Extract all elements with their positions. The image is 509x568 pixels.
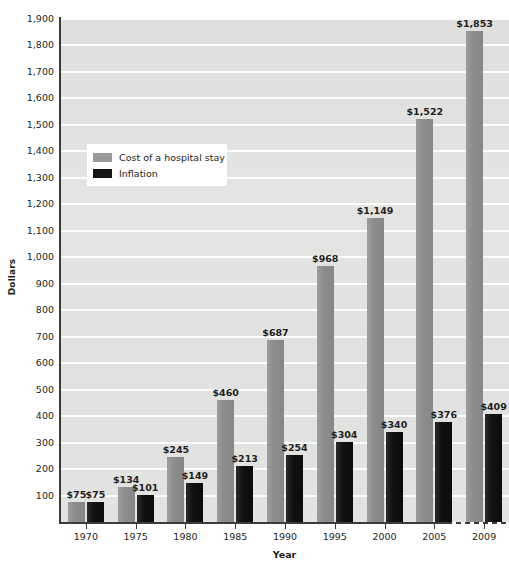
- bar-inflation-1980: [186, 483, 203, 522]
- gridline: [61, 256, 509, 258]
- bar-cost-1970: [68, 502, 85, 522]
- bar-inflation-1970: [87, 502, 104, 522]
- x-axis-line-dashed-extension: [447, 522, 509, 524]
- y-axis-tick-label: 1,900: [8, 14, 54, 24]
- bar-cost-2005: [416, 119, 433, 522]
- x-axis-tick-mark: [235, 524, 236, 529]
- legend: Cost of a hospital stay Inflation: [87, 144, 227, 186]
- y-axis-tick-label: 1,200: [8, 199, 54, 209]
- bar-cost-2009: [466, 31, 483, 522]
- gridline: [61, 124, 509, 126]
- legend-label-cost: Cost of a hospital stay: [119, 152, 225, 163]
- x-axis-tick-label-2009: 2009: [454, 531, 509, 542]
- gridline: [61, 203, 509, 205]
- value-label-cost-1985: $460: [196, 387, 256, 398]
- legend-label-inflation: Inflation: [119, 168, 158, 179]
- y-axis-tick-label: 1,700: [8, 67, 54, 77]
- value-label-cost-2000: $1,149: [345, 205, 405, 216]
- bar-inflation-2005: [435, 422, 452, 522]
- y-axis-tick-label: 400: [8, 411, 54, 421]
- y-axis-tick-label: 500: [8, 385, 54, 395]
- gridline: [61, 309, 509, 311]
- y-axis-tick-label: 1,000: [8, 252, 54, 262]
- value-label-inflation-2000: $340: [364, 419, 424, 430]
- y-axis-line: [59, 17, 61, 524]
- y-axis-tick-label: 1,600: [8, 93, 54, 103]
- y-axis-tick-label: 800: [8, 305, 54, 315]
- gridline: [61, 230, 509, 232]
- x-axis-tick-mark: [385, 524, 386, 529]
- legend-swatch-inflation-icon: [93, 169, 112, 178]
- bar-inflation-2000: [386, 432, 403, 522]
- y-axis-tick-label: 300: [8, 438, 54, 448]
- value-label-cost-1995: $968: [295, 253, 355, 264]
- value-label-cost-1990: $687: [246, 327, 306, 338]
- y-axis-tick-label: 600: [8, 358, 54, 368]
- value-label-inflation-1975: $101: [115, 482, 175, 493]
- y-axis-tick-label: 1,500: [8, 120, 54, 130]
- legend-swatch-cost-icon: [93, 153, 112, 162]
- x-axis-tick-mark: [335, 524, 336, 529]
- bar-inflation-1995: [336, 442, 353, 522]
- y-axis-tick-label: 900: [8, 279, 54, 289]
- gridline: [61, 97, 509, 99]
- value-label-inflation-1995: $304: [314, 429, 374, 440]
- legend-item-cost: Cost of a hospital stay: [93, 149, 221, 165]
- x-axis-tick-mark: [285, 524, 286, 529]
- y-axis-tick-label: 1,800: [8, 40, 54, 50]
- y-axis-tick-label: 200: [8, 464, 54, 474]
- y-axis-tick-label: 1,400: [8, 146, 54, 156]
- bar-cost-2000: [367, 218, 384, 522]
- x-axis-tick-mark: [86, 524, 87, 529]
- gridline: [61, 71, 509, 73]
- x-axis-tick-mark: [136, 524, 137, 529]
- value-label-inflation-1980: $149: [165, 470, 225, 481]
- bar-chart: Dollars 1002003004005006007008009001,000…: [0, 0, 509, 568]
- x-axis-tick-mark: [434, 524, 435, 529]
- value-label-inflation-2009: $409: [464, 401, 509, 412]
- gridline: [61, 362, 509, 364]
- y-axis-tick-label: 700: [8, 332, 54, 342]
- y-axis-tick-label: 1,100: [8, 226, 54, 236]
- bar-inflation-2009: [485, 414, 502, 522]
- x-axis-title: Year: [60, 549, 509, 560]
- bar-inflation-1975: [137, 495, 154, 522]
- legend-item-inflation: Inflation: [93, 165, 221, 181]
- gridline: [61, 44, 509, 46]
- y-axis-tick-label: 1,300: [8, 173, 54, 183]
- gridline: [61, 283, 509, 285]
- gridline: [61, 389, 509, 391]
- gridline: [61, 19, 509, 20]
- bar-inflation-1985: [236, 466, 253, 522]
- x-axis-tick-mark: [185, 524, 186, 529]
- value-label-cost-1980: $245: [146, 444, 206, 455]
- bar-inflation-1990: [286, 455, 303, 522]
- bar-cost-1990: [267, 340, 284, 522]
- value-label-inflation-1990: $254: [265, 442, 325, 453]
- bar-cost-1995: [317, 266, 334, 522]
- x-axis-tick-mark: [484, 524, 485, 529]
- x-axis-line: [59, 522, 447, 524]
- value-label-inflation-1985: $213: [215, 453, 275, 464]
- value-label-cost-2005: $1,522: [395, 106, 455, 117]
- value-label-cost-2009: $1,853: [445, 18, 505, 29]
